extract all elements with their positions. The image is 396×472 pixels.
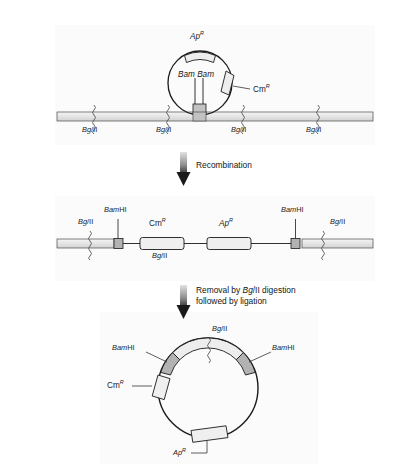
label-bamhi-right-panel2: BamHI: [281, 206, 304, 213]
label-bam-pair-panel1: Bam Bam: [178, 71, 214, 79]
bamhi-leader-lines-panel2: [118, 219, 296, 239]
label-bgiii-right-panel2: Bg/II: [330, 218, 345, 225]
recombination-arrow: [177, 152, 191, 186]
label-bgiii-3-panel1: Bg/II: [231, 126, 246, 133]
label-bgiii-top-panel3: Bg/II: [212, 325, 227, 332]
chromosome-bar-panel1: [57, 112, 373, 121]
ap-cassette-panel1: [185, 52, 216, 63]
label-ap-panel3: ApR: [173, 448, 186, 457]
label-bamhi-left-panel3: BamHI: [112, 344, 135, 351]
label-bamhi-right-panel3: BamHI: [272, 344, 295, 351]
label-bgiii-1-panel1: Bg/II: [82, 126, 97, 133]
label-bgiii-4-panel1: Bg/II: [306, 126, 321, 133]
bgiii-site-squiggles-panel2: [89, 231, 325, 260]
label-digestion-line2: followed by ligation: [196, 296, 296, 307]
recircularized-plasmid-panel3: [132, 338, 271, 453]
label-recombination: Recombination: [196, 161, 252, 169]
label-bamhi-left-panel2: BamHI: [104, 206, 127, 213]
label-bgiii-left-panel2: Bg/II: [78, 218, 93, 225]
digestion-ligation-arrow: [177, 285, 191, 319]
integration-junction-panel1: [193, 104, 206, 121]
label-digestion-ligation: Removal by Bg/II digestion followed by l…: [196, 285, 296, 306]
label-ap-panel1: ApR: [190, 31, 204, 41]
label-digestion-line1: Removal by Bg/II digestion: [196, 285, 296, 296]
label-bgiii-2-panel1: Bg/II: [156, 126, 171, 133]
label-cm-panel1: CmR: [253, 84, 270, 94]
figure-canvas: ApR Bam Bam CmR Bg/II Bg/II Bg/II Bg/II …: [0, 0, 396, 472]
recombinant-map-panel2: [57, 238, 373, 250]
cm-cassette-panel1: [221, 71, 250, 95]
label-cm-panel3: CmR: [107, 380, 124, 390]
label-bgiii-mid-panel2: Bg/II: [152, 252, 167, 259]
bam-site-ticks-panel1: [195, 78, 203, 106]
label-cm-panel2: CmR: [149, 218, 166, 228]
label-ap-panel2: ApR: [219, 218, 233, 228]
